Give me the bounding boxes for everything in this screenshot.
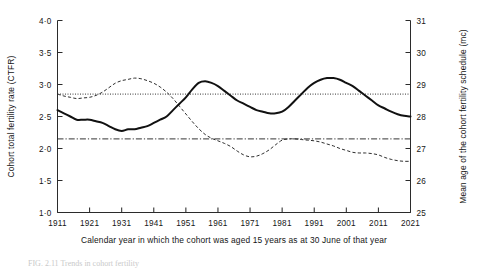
y-tick-label-right: 29 [417,81,427,90]
y-tick-label-left: 1·5 [39,177,52,186]
x-tick-label: 1981 [273,219,292,228]
figure-caption: FIG. 2.11 Trends in cohort fertility [28,259,458,268]
y-tick-label-left: 3·0 [39,81,52,90]
x-tick-label: 1991 [305,219,324,228]
series-line-mean-age [58,78,411,131]
y-tick-label-right: 30 [417,49,427,58]
x-tick-label: 1951 [176,219,195,228]
y-tick-label-left: 4·0 [39,17,52,26]
x-tick-label: 1971 [240,219,259,228]
y-axis-title-right: Mean age of the cohort fertility schedul… [458,29,468,204]
x-axis-title: Calendar year in which the cohort was ag… [81,235,387,245]
x-tick-label: 2021 [401,219,420,228]
y-axis-title-left: Cohort total fertility rate (CTFR) [6,55,16,177]
y-tick-label-right: 27 [417,145,427,154]
y-tick-label-left: 3·5 [39,49,52,58]
x-tick-label: 2011 [369,219,388,228]
x-tick-label: 1911 [48,219,67,228]
x-tick-label: 1931 [112,219,131,228]
y-tick-label-right: 31 [417,17,427,26]
y-tick-label-right: 25 [417,209,427,218]
y-tick-label-right: 26 [417,177,427,186]
y-tick-label-left: 2·5 [39,113,52,122]
x-tick-label: 1921 [80,219,99,228]
x-tick-label: 1961 [208,219,227,228]
x-tick-label: 2001 [337,219,356,228]
series-layer [58,78,411,161]
y-tick-label-right: 28 [417,113,427,122]
y-tick-label-left: 2·0 [39,145,52,154]
x-tick-label: 1941 [144,219,163,228]
labels-layer: 1·01·52·02·53·03·54·02526272829303119111… [6,17,468,245]
y-tick-label-left: 1·0 [39,209,52,218]
axes-layer [58,21,411,213]
